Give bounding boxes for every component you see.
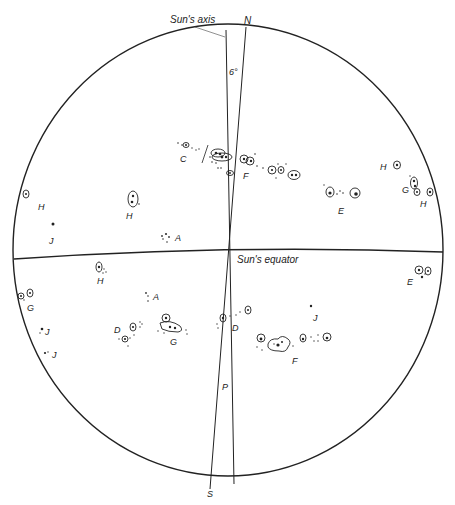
axis-label-leader [195,27,225,37]
spot-label-h-nw1: H [38,203,45,212]
suns-axis-label: Sun's axis [170,15,215,25]
spot-group-g-south [157,314,187,335]
sun-disk-diagram: Sun's axis N 6° Sun's equator P S C F H … [0,0,455,505]
spot-label-c: C [180,155,187,164]
spot-group-g-sw [18,289,33,301]
spot-label-h-sw: H [97,277,104,286]
spot-label-a-south: A [153,293,159,302]
spot-group-g-ne [409,175,420,195]
spot-label-f-south: F [292,357,298,366]
spot-label-j-se: J [313,314,318,323]
spot-group-e-south [415,266,431,278]
spot-label-h-nw2: H [126,212,133,221]
spot-label-j-sw1: J [45,328,50,337]
suns-axis-line [226,30,234,484]
south-label: S [207,490,213,499]
spot-group-h-ne1 [394,161,401,169]
spot-label-e-north: E [338,207,344,216]
spot-group-h-sw [96,262,107,274]
suns-equator-label: Sun's equator [237,255,298,265]
spot-group-h-nw-limb [23,190,29,198]
spot-group-a-north [161,233,170,243]
spot-label-h-ne2: H [420,200,427,209]
spot-group-f-south [256,333,331,352]
angle-label: 6° [229,68,238,77]
spot-label-d-center: D [232,324,239,333]
spot-group-h-ne2 [427,188,433,196]
spot-label-g-south: G [170,338,177,347]
spot-label-g-sw: G [27,304,34,313]
spot-group-a-south [145,292,149,302]
spot-label-j-sw2: J [52,351,57,360]
spot-group-e-north [323,184,360,198]
spot-label-e-south: E [407,278,413,287]
spot-j-se [310,305,312,307]
spot-group-f-north-trailing [268,163,300,179]
spot-label-a-north: A [175,234,181,243]
spot-group-d-left [118,321,142,346]
spot-label-d-left: D [114,326,121,335]
diagram-canvas [0,0,455,505]
north-label: N [244,16,251,26]
spot-label-j-nw: J [49,237,54,246]
spot-group-j-sw1 [39,328,43,334]
spot-label-f-north: F [243,172,249,181]
spot-label-h-ne1: H [380,163,387,172]
p-label: P [222,383,228,392]
spot-group-c [177,142,200,151]
spot-group-h-nw2 [128,191,140,207]
spot-label-g-ne: G [402,186,409,195]
c-marker-line [202,145,208,163]
spot-group-j-sw2 [44,351,49,354]
spot-j-nw [52,223,55,226]
